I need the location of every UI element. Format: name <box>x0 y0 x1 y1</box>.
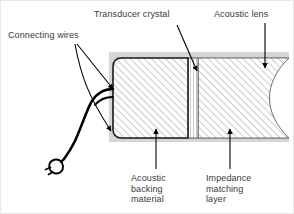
connecting-wires-upper-arrow <box>77 44 113 89</box>
label-connecting-wires: Connecting wires <box>8 30 79 41</box>
connecting-wires-cable <box>64 89 113 159</box>
label-acoustic-lens: Acoustic lens <box>214 9 268 20</box>
label-acoustic-backing-material: Acoustic backing material <box>131 173 166 205</box>
label-transducer-crystal: Transducer crystal <box>94 9 170 20</box>
connecting-wires-lower-arrow <box>75 44 111 131</box>
label-impedance-matching-layer: Impedance matching layer <box>206 173 251 205</box>
power-plug-icon <box>46 159 65 175</box>
figure-root: Connecting wires Transducer crystal Acou… <box>0 0 294 214</box>
acoustic-backing-material-region <box>113 58 188 138</box>
